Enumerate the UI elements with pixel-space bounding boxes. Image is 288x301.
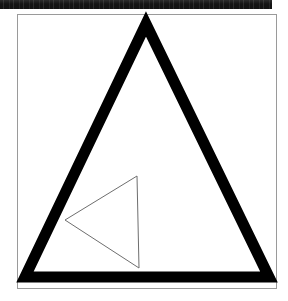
large-triangle	[25, 24, 269, 277]
page-canvas: Two nested triangles	[0, 0, 288, 301]
small-triangle	[65, 176, 139, 268]
figure-drawing	[0, 0, 288, 301]
